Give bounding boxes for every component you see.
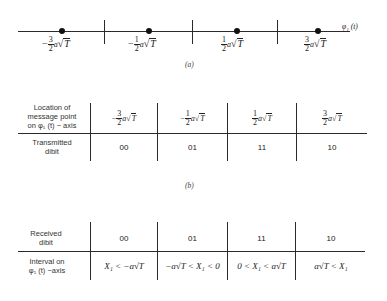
phi1-axis-label: φ₁ (t) (342, 22, 358, 31)
row-header-transmitted-dibit: Transmitted dibit (16, 138, 88, 156)
message-point-dot (59, 28, 65, 34)
point-label: 12a√T (221, 36, 243, 53)
interval-cell: 0 < X₁ < a√T (228, 254, 295, 278)
phi1-axis-line (18, 31, 350, 32)
decision-boundary-tick (192, 20, 193, 44)
location-cell: 32a√T (297, 104, 367, 132)
decision-boundary-tick (277, 20, 278, 44)
message-point-dot (234, 28, 240, 34)
received-dibit-cell: 00 (91, 227, 157, 249)
row-header-interval: Interval on φ₁ (t) −axis (16, 257, 78, 275)
caption-b: (b) (185, 181, 194, 190)
point-label: −12a√T (128, 36, 156, 53)
location-cell: 12a√T (228, 104, 296, 132)
transmitted-dibit-cell: 11 (228, 135, 296, 159)
decision-boundary-tick (104, 20, 105, 44)
message-point-dot (315, 28, 321, 34)
interval-cell: X₁ < −a√T (91, 254, 157, 278)
location-cell: −12a√T (158, 104, 227, 132)
table-b-horizontal-rule (18, 133, 367, 134)
table-c-horizontal-rule (18, 251, 365, 252)
message-point-dot (146, 28, 152, 34)
location-cell: −32a√T (91, 104, 157, 132)
interval-cell: a√T < X₁ (296, 254, 366, 278)
row-header-received-dibit: Received dibit (16, 229, 76, 247)
received-dibit-cell: 10 (296, 227, 366, 249)
transmitted-dibit-cell: 10 (297, 135, 367, 159)
interval-cell: −a√T < X₁ < 0 (158, 254, 227, 278)
row-header-location: Location of message point on φ₁ (t) − ax… (16, 103, 88, 130)
transmitted-dibit-cell: 00 (91, 135, 157, 159)
received-dibit-cell: 01 (158, 227, 227, 249)
point-label: −32a√T (42, 36, 70, 53)
caption-a: (a) (185, 60, 194, 69)
transmitted-dibit-cell: 01 (158, 135, 227, 159)
received-dibit-cell: 11 (228, 227, 295, 249)
point-label: 32a√T (304, 36, 326, 53)
